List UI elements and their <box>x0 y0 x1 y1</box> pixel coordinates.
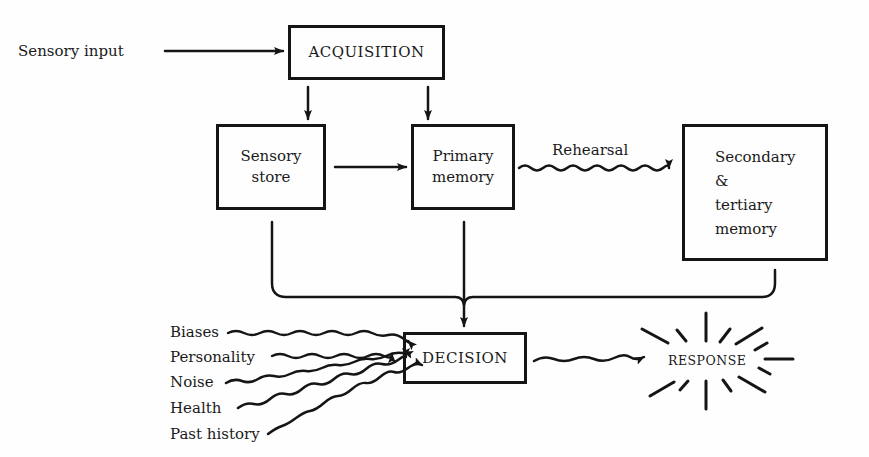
secondary-tertiary-memory-node[interactable]: Secondary & tertiary memory <box>682 124 828 261</box>
arrow-health-wavy <box>238 356 406 408</box>
sensory-store-node[interactable]: Sensory store <box>216 124 326 210</box>
factor-past-history-label: Past history <box>170 425 260 443</box>
arrow-decision-to-response-wavy <box>534 355 644 361</box>
memory-model-diagram: Sensory input ACQUISITION Sensory store … <box>0 0 869 457</box>
factor-biases-label: Biases <box>170 323 219 341</box>
sensory-store-label: Sensory store <box>240 146 301 188</box>
sensory-input-label: Sensory input <box>18 42 124 60</box>
factor-noise-label: Noise <box>170 373 214 391</box>
arrow-rehearsal-wavy <box>519 166 669 171</box>
primary-memory-node[interactable]: Primary memory <box>411 124 515 210</box>
arrow-biases-wavy <box>228 331 409 343</box>
acquisition-label: ACQUISITION <box>308 42 424 63</box>
decision-label: DECISION <box>422 348 508 369</box>
rehearsal-label: Rehearsal <box>552 141 628 159</box>
primary-memory-label: Primary memory <box>432 146 494 188</box>
factor-health-label: Health <box>170 399 221 417</box>
decision-node[interactable]: DECISION <box>403 332 527 384</box>
arrow-personality-wavy <box>272 354 392 358</box>
acquisition-node[interactable]: ACQUISITION <box>288 25 445 80</box>
response-label: RESPONSE <box>668 352 746 370</box>
secondary-tertiary-memory-label: Secondary & tertiary memory <box>715 145 795 241</box>
factor-personality-label: Personality <box>170 348 255 366</box>
